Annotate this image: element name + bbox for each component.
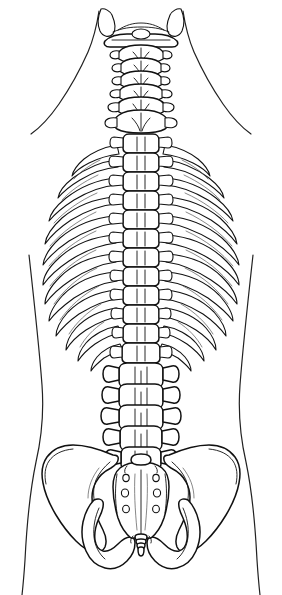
T5-right-transverse: [159, 213, 173, 224]
T1-right-transverse: [159, 137, 172, 148]
T4-left-transverse: [109, 194, 123, 205]
T7-body: [123, 248, 159, 267]
T10-body: [123, 305, 159, 324]
vertebra-T5: [109, 210, 173, 229]
T11-right-transverse: [159, 327, 170, 338]
T12-right-transverse: [160, 346, 172, 358]
sacral-foramen-left-2: [121, 489, 128, 497]
vertebra-T8: [110, 267, 172, 286]
sacral-foramen-right-1: [153, 474, 159, 481]
C2-left-process: [110, 51, 119, 59]
T8-body: [123, 267, 159, 286]
vertebra-T6: [109, 229, 173, 248]
silhouette-left-shoulder: [31, 11, 99, 134]
left-ilium: [42, 445, 118, 552]
sacral-foramen-left-3: [123, 505, 130, 513]
left-mastoid-process: [98, 9, 115, 37]
C2-right-process: [163, 51, 172, 59]
sacral-foramen-left-1: [123, 474, 129, 481]
vertebra-T9: [110, 286, 172, 305]
T1-body: [123, 134, 159, 153]
C7-left-process: [105, 118, 117, 128]
thoracic-spine: [109, 134, 173, 363]
silhouette-right-shoulder: [183, 11, 251, 134]
right-ilium: [164, 445, 240, 552]
T11-body: [123, 324, 159, 343]
vertebra-T1: [110, 134, 172, 153]
L2-left-transverse: [102, 387, 119, 403]
T2-left-transverse: [109, 156, 123, 167]
T6-body: [123, 229, 159, 248]
vertebra-T4: [109, 191, 173, 210]
C5-right-process: [162, 90, 172, 98]
T11-left-transverse: [112, 327, 123, 338]
T12-left-transverse: [110, 346, 122, 358]
cervical-spine: [104, 29, 178, 133]
T10-left-transverse: [111, 308, 123, 319]
C5-left-process: [110, 90, 120, 98]
anatomy-figure: [0, 0, 282, 595]
C7-right-process: [165, 118, 177, 128]
T3-right-transverse: [159, 175, 173, 186]
T2-right-transverse: [159, 156, 173, 167]
vertebra-T11: [112, 324, 170, 343]
C6-left-process: [108, 103, 119, 112]
L1-left-transverse: [103, 366, 119, 382]
T9-right-transverse: [159, 289, 172, 300]
atlas-posterior-tubercle: [132, 29, 150, 39]
T3-left-transverse: [109, 175, 123, 186]
T1-left-transverse: [110, 137, 123, 148]
L2-right-transverse: [163, 387, 180, 403]
T8-right-transverse: [159, 270, 172, 281]
L4-right-transverse: [162, 429, 179, 445]
T6-right-transverse: [159, 232, 173, 243]
vertebra-C7: [105, 110, 177, 133]
T7-left-transverse: [109, 251, 123, 262]
T9-body: [123, 286, 159, 305]
silhouette-left-waist: [22, 255, 43, 595]
vertebra-T3: [109, 172, 173, 191]
silhouette-right-waist: [239, 255, 260, 595]
T6-left-transverse: [109, 232, 123, 243]
coccyx-segment-4: [138, 547, 144, 556]
vertebra-T7: [109, 248, 173, 267]
T4-body: [123, 191, 159, 210]
T4-right-transverse: [159, 194, 173, 205]
T5-left-transverse: [109, 213, 123, 224]
vertebra-T10: [111, 305, 171, 324]
right-mastoid-process: [167, 9, 184, 37]
pelvis: [42, 445, 240, 569]
L4-left-transverse: [103, 429, 120, 445]
L3-right-transverse: [163, 408, 181, 424]
sacral-foramen-right-2: [153, 489, 160, 497]
C3-right-process: [161, 64, 170, 72]
C4-left-process: [112, 77, 121, 85]
anatomy-illustration: [0, 0, 282, 595]
C6-right-process: [163, 103, 174, 112]
sacral-base: [131, 454, 151, 465]
T12-body: [122, 343, 160, 363]
T2-body: [123, 153, 159, 172]
L3-left-transverse: [101, 408, 119, 424]
S1-spinous-tubercle: [131, 454, 151, 465]
sacral-foramen-right-3: [153, 505, 160, 513]
T10-right-transverse: [159, 308, 171, 319]
C3-left-process: [112, 64, 121, 72]
T5-body: [123, 210, 159, 229]
sacrum: [113, 462, 169, 538]
vertebra-T2: [109, 153, 173, 172]
T7-right-transverse: [159, 251, 173, 262]
T9-left-transverse: [110, 289, 123, 300]
L1-right-transverse: [163, 366, 179, 382]
C4-right-process: [161, 77, 170, 85]
T8-left-transverse: [110, 270, 123, 281]
T3-body: [123, 172, 159, 191]
